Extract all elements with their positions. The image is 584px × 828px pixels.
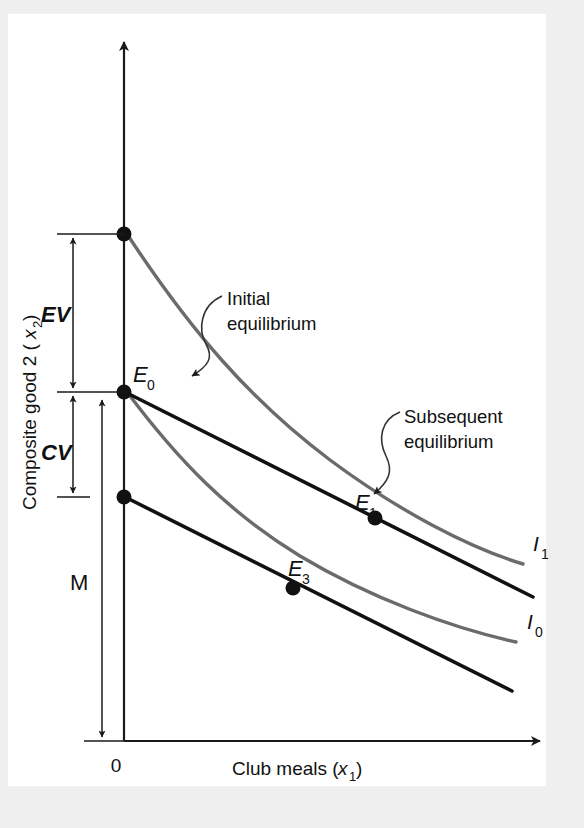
curve-label-I0-text: I bbox=[527, 610, 533, 633]
annotation-subsequent-line2: equilibrium bbox=[404, 431, 493, 452]
measure-label-M: M bbox=[70, 570, 88, 595]
figure-root: EV CV M E 0 E 1 E 3 I 1 I 0 Initial equi bbox=[0, 0, 584, 828]
measure-label-EV: EV bbox=[41, 302, 73, 327]
y-axis-label: Composite good 2 ( x 2 ) bbox=[19, 315, 45, 510]
x-axis-label-main: Club meals ( bbox=[232, 758, 339, 779]
economics-diagram: EV CV M E 0 E 1 E 3 I 1 I 0 Initial equi bbox=[0, 0, 584, 828]
annotation-subsequent-equilibrium: Subsequent equilibrium bbox=[374, 406, 503, 494]
annotation-initial-line2: equilibrium bbox=[227, 313, 316, 334]
annotation-initial-leader-line bbox=[192, 296, 222, 376]
point-label-E3-text: E bbox=[288, 556, 303, 581]
curve-label-I0: I 0 bbox=[527, 610, 543, 640]
point-label-E1-text: E bbox=[355, 490, 370, 515]
point-label-E0-text: E bbox=[133, 362, 148, 387]
indifference-curve-I1 bbox=[127, 234, 523, 564]
x-axis-label-var: x bbox=[337, 758, 349, 779]
y-axis-label-var: x bbox=[19, 328, 40, 340]
point-E3 bbox=[286, 581, 301, 596]
curve-label-I1-sub: 1 bbox=[541, 546, 549, 562]
x-axis-label-close: ) bbox=[356, 758, 362, 779]
annotation-subsequent-leader-line bbox=[374, 412, 400, 494]
point-label-E0: E 0 bbox=[133, 362, 155, 393]
point-M-level bbox=[117, 490, 132, 505]
equilibrium-markers bbox=[117, 227, 383, 596]
budget-line-B3 bbox=[125, 497, 512, 691]
curve-label-I0-sub: 0 bbox=[535, 624, 543, 640]
annotation-subsequent-line1: Subsequent bbox=[404, 406, 503, 427]
annotation-initial-equilibrium: Initial equilibrium bbox=[192, 288, 316, 376]
x-axis-label: Club meals ( x 1 ) bbox=[232, 758, 362, 784]
measure-label-CV: CV bbox=[41, 440, 74, 465]
point-label-E3-sub: 3 bbox=[302, 571, 310, 587]
point-label-E1-sub: 1 bbox=[369, 505, 377, 521]
point-label-E0-sub: 0 bbox=[147, 377, 155, 393]
curve-label-I1-text: I bbox=[533, 532, 539, 555]
y-axis-label-close: ) bbox=[19, 315, 40, 321]
point-label-E1: E 1 bbox=[355, 490, 377, 521]
bracket-M bbox=[84, 400, 124, 741]
origin-label: 0 bbox=[111, 755, 122, 776]
indifference-curve-I0 bbox=[127, 392, 516, 642]
annotation-initial-line1: Initial bbox=[227, 288, 270, 309]
y-axis-label-main: Composite good 2 ( bbox=[19, 344, 40, 510]
curve-label-I1: I 1 bbox=[533, 532, 549, 562]
axis-group bbox=[124, 42, 540, 741]
